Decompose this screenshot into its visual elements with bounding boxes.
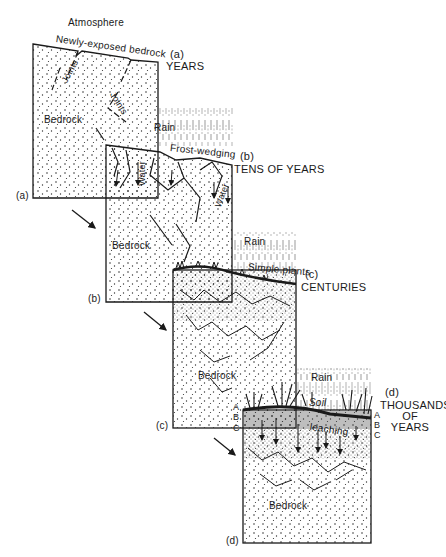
stage-a-timescale: YEARS [166,60,204,72]
stage-a-side-marker: (a) [16,190,29,201]
rain-d [296,368,371,410]
stage-a-bedrock-label: Bedrock [44,114,82,125]
soil-label: Soil [309,397,326,408]
arrow-c-to-d [214,438,235,455]
stage-b-marker: (b) [240,150,254,162]
stage-d-bedrock-label: Bedrock [269,500,307,511]
arrow-a-to-b [72,210,95,228]
stage-c-timescale: CENTURIES [301,281,366,293]
stage-c-horizon-c: C [233,423,240,434]
stage-d-rain-label: Rain [311,372,332,383]
stage-c-side-marker: (c) [156,420,168,431]
stage-d-marker: (d) [385,386,399,398]
stage-d-horizon-right-c: C [374,430,381,441]
stage-b-rain-label: Rain [154,122,175,133]
stage-b-bedrock-label: Bedrock [112,240,150,251]
water-label-1: Water [137,161,148,186]
stage-c-rain-label: Rain [244,236,265,247]
stage-a-marker: (a) [170,48,184,60]
stage-c-marker: (c) [305,268,318,280]
atmosphere-label: Atmosphere [68,17,124,28]
stage-d-timescale-line-3: YEARS [380,421,440,433]
stage-b-timescale: TENS OF YEARS [234,163,324,175]
arrow-b-to-c [144,312,166,330]
stage-c-horizon-b: B [233,412,239,423]
stage-d-side-marker: (d) [226,535,239,546]
stage-c-bedrock-label: Bedrock [198,370,236,381]
stage-b-side-marker: (b) [88,293,101,304]
